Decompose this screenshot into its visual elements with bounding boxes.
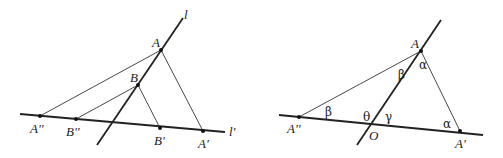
point-A-prime: [458, 129, 462, 133]
right-figure: A A'' O A' α β β θ γ α: [279, 20, 483, 151]
line-l-prime: [20, 114, 225, 132]
point-A-prime: [201, 129, 205, 133]
label-B-prime: B': [154, 133, 165, 148]
point-B-prime: [158, 126, 162, 130]
left-figure: l l' A B A'' B'' B' A': [20, 7, 236, 151]
angle-gamma-at-O: γ: [385, 110, 392, 124]
line-l-prime: [279, 115, 483, 135]
segment-A-A-double-prime: [299, 51, 421, 117]
point-A-double-prime: [38, 114, 42, 118]
point-A: [419, 49, 423, 53]
angle-alpha-at-A-prime: α: [443, 117, 451, 131]
point-A-double-prime: [297, 115, 301, 119]
label-A-prime: A': [454, 136, 466, 151]
segment-A-A-prime: [161, 50, 203, 131]
label-l: l: [184, 7, 188, 22]
angle-alpha-at-A: α: [419, 58, 427, 72]
point-B-double-prime: [74, 117, 78, 121]
label-A: A: [410, 36, 419, 51]
angle-beta-at-A: β: [398, 68, 405, 82]
line-l: [97, 18, 183, 145]
angle-theta-at-O: θ: [363, 110, 370, 124]
label-l-prime: l': [229, 124, 236, 139]
label-O: O: [369, 128, 379, 143]
angle-beta-at-A-double-prime: β: [325, 105, 332, 119]
label-B: B: [130, 70, 138, 85]
segment-A-A-double-prime: [40, 50, 161, 116]
label-A-prime: A': [197, 136, 209, 151]
label-B-double-prime: B'': [66, 124, 80, 139]
label-A-double-prime: A'': [286, 121, 301, 136]
segment-B-B-prime: [138, 85, 160, 128]
label-A-double-prime: A'': [29, 121, 44, 136]
diagram-canvas: l l' A B A'' B'' B' A' A A'' O A' α β β …: [0, 0, 503, 158]
segment-B-B-double-prime: [76, 85, 138, 119]
label-A: A: [151, 35, 160, 50]
